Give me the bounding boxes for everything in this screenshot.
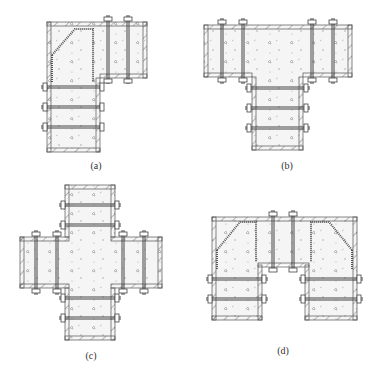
panel-b	[204, 18, 352, 150]
label-c: (c)	[85, 350, 96, 361]
label-d: (d)	[277, 345, 289, 356]
label-b: (b)	[281, 160, 293, 171]
panel-a	[41, 15, 147, 152]
panel-d	[206, 210, 363, 320]
panel-c	[20, 185, 162, 340]
formwork-diagram	[0, 0, 375, 372]
label-a: (a)	[90, 160, 101, 171]
